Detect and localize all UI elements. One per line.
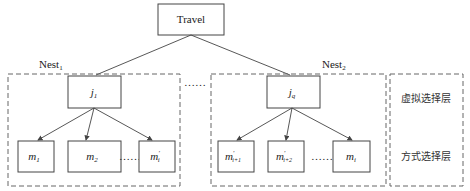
nest-2-node: jq — [267, 76, 320, 108]
edge-jq-mi — [292, 108, 352, 140]
nest-2-label: Nest2 — [322, 58, 346, 72]
diagram-canvas: Travel Nest1 Nest2 …… 虚拟选择层 方式选择层 j1 jq — [0, 0, 470, 191]
edge-j1-mi — [94, 108, 152, 140]
nest-1-child-2: m2 — [68, 141, 121, 172]
nest-ellipsis: …… — [184, 76, 206, 88]
virtual-layer-label: 虚拟选择层 — [401, 92, 451, 104]
edge-root-j1 — [96, 35, 191, 75]
root-node: Travel — [158, 4, 224, 35]
nested-logit-diagram: Travel Nest1 Nest2 …… 虚拟选择层 方式选择层 j1 jq — [0, 0, 470, 191]
nest-1-child-ellipsis: …… — [119, 150, 141, 162]
nest-2-child-3: mi — [333, 141, 370, 172]
nest-1-node: j1 — [68, 76, 121, 108]
mode-layer-label: 方式选择层 — [401, 150, 451, 162]
nest-2-child-1: m'i+1 — [218, 141, 254, 172]
edge-j1-m1 — [38, 108, 94, 140]
edge-jq-mi2 — [286, 108, 292, 140]
layer-legend-box — [390, 74, 463, 186]
svg-text:m'i: m'i — [150, 149, 160, 164]
nest-1-label: Nest1 — [39, 58, 63, 72]
nest-1-child-1: m1 — [18, 141, 54, 172]
edge-root-jq — [191, 35, 290, 75]
edge-j1-m2 — [86, 108, 94, 140]
edge-jq-mi1 — [237, 108, 292, 140]
nest-2-child-ellipsis: …… — [311, 150, 333, 162]
nest-2-child-2: m'i+2 — [268, 141, 304, 172]
root-label: Travel — [177, 13, 205, 25]
nest-1-child-3: m'i — [139, 141, 175, 172]
